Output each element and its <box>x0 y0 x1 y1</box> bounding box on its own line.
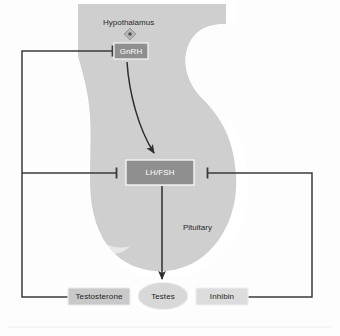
diagram-canvas: Hypothalamus Pituitary GnRH LH/FSH Teste… <box>0 0 340 336</box>
pituitary-label: Pituitary <box>183 223 212 232</box>
inhibin-box-shape[interactable] <box>196 288 248 305</box>
testes-ellipse-shape[interactable] <box>138 283 188 310</box>
hypothalamus-label: Hypothalamus <box>103 18 154 27</box>
testosterone-box-shape[interactable] <box>68 288 130 305</box>
diagram-graphics <box>0 0 340 336</box>
lhfsh-box-shape[interactable] <box>126 160 194 185</box>
gnrh-box-shape[interactable] <box>114 43 148 59</box>
